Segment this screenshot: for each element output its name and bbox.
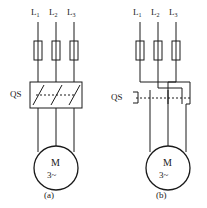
- fuse-a-l1: [34, 41, 42, 60]
- motor-letter-b: M: [163, 158, 172, 168]
- fuse-a-l3: [70, 41, 78, 60]
- fuse-b-l1: [136, 41, 144, 60]
- fuse-b-l2: [154, 41, 162, 60]
- fuse-a-l2: [52, 41, 60, 60]
- switch-label-b-qs: QS: [111, 93, 123, 102]
- phase-sub-b-l1: 1: [139, 12, 142, 18]
- phase-sub-b-l3: 3: [175, 12, 178, 18]
- phase-sub-a-l1: 1: [37, 12, 40, 18]
- phase-label-a-l2: L2: [49, 8, 58, 17]
- motor-letter-a: M: [51, 158, 60, 168]
- caption-a: (a): [44, 191, 54, 200]
- figure-root: L1 L2 L3 QS M 3~ (a) L1 L2 L3 QS M 3~ (b…: [0, 0, 207, 208]
- phase-sub-b-l2: 2: [157, 12, 160, 18]
- motor-type-b: 3~: [159, 171, 168, 180]
- contact-bracket-b-inner: [168, 78, 176, 104]
- fuse-b-l3: [172, 41, 180, 60]
- phase-label-b-l3: L3: [169, 8, 178, 17]
- phase-label-a-l1: L1: [31, 8, 40, 17]
- motor-type-a: 3~: [47, 171, 56, 180]
- motor-circle-b: [146, 146, 190, 190]
- caption-b: (b): [156, 191, 167, 200]
- switch-label-a-qs: QS: [10, 90, 22, 99]
- circuit-schematic-svg: [0, 0, 207, 208]
- phase-sub-a-l2: 2: [55, 12, 58, 18]
- phase-label-b-l2: L2: [151, 8, 160, 17]
- phase-label-b-l1: L1: [133, 8, 142, 17]
- phase-sub-a-l3: 3: [73, 12, 76, 18]
- motor-circle-a: [34, 146, 78, 190]
- phase-label-a-l3: L3: [67, 8, 76, 17]
